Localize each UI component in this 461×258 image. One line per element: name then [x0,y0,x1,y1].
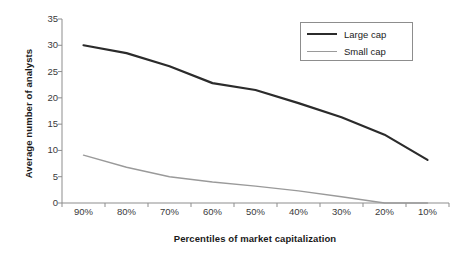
legend: Large cap Small cap [300,22,413,61]
legend-swatch-icon [307,51,337,52]
data-series [84,45,428,203]
x-axis-tick-label: 90% [61,207,107,217]
x-axis-tick-label: 50% [233,207,279,217]
x-axis-tick-label: 60% [190,207,236,217]
x-axis-tick-label: 80% [104,207,150,217]
x-axis-tick-label: 30% [319,207,365,217]
legend-item-small-cap: Small cap [307,43,386,59]
legend-label: Large cap [344,29,386,40]
x-axis-tick-label: 70% [147,207,193,217]
x-axis-title: Percentiles of market capitalization [60,233,450,244]
x-axis-tick-label: 10% [405,207,451,217]
series-line [84,155,428,203]
chart-figure: Average number of analysts 0510152025303… [0,0,461,258]
legend-item-large-cap: Large cap [307,26,386,42]
series-line [84,45,428,160]
legend-label: Small cap [344,46,386,57]
x-axis-tick-label: 40% [276,207,322,217]
legend-swatch-icon [307,33,337,35]
x-axis-tick-label: 20% [362,207,408,217]
